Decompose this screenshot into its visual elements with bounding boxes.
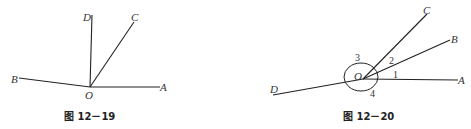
caption-12-19: 图 12－19 — [64, 111, 115, 122]
label-O: O — [85, 89, 93, 101]
ray-OC — [90, 22, 134, 87]
angle-mark-4: 4 — [370, 88, 375, 99]
label-O: O — [354, 70, 362, 82]
ray-OD — [90, 15, 92, 87]
geometry-diagrams: A B C D O 图 12－19 A B C D O 1 2 3 4 图 12… — [0, 0, 471, 129]
label-D: D — [82, 11, 91, 23]
angle-mark-2: 2 — [389, 55, 394, 66]
label-B: B — [11, 73, 18, 85]
figure-12-20: A B C D O 1 2 3 4 图 12－20 — [269, 4, 465, 122]
label-D: D — [269, 83, 278, 95]
ray-OB — [363, 40, 450, 79]
caption-12-20: 图 12－20 — [343, 111, 394, 122]
angle-mark-1: 1 — [393, 69, 398, 80]
angle-mark-3: 3 — [355, 52, 360, 63]
label-B: B — [451, 33, 458, 45]
label-C: C — [131, 11, 139, 23]
ray-OB — [19, 78, 90, 87]
label-A: A — [159, 81, 167, 93]
figure-12-19: A B C D O 图 12－19 — [11, 11, 167, 122]
label-C: C — [423, 4, 431, 16]
label-A: A — [457, 74, 465, 86]
